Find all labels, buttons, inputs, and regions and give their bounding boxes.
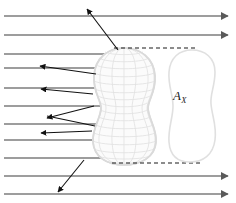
scattered-ray-left-5: [41, 131, 92, 133]
scattered-ray-left-1: [40, 66, 96, 74]
figure-canvas: [0, 0, 236, 203]
scattering-figure: AX: [0, 0, 236, 203]
projected-cross-section-outline: [169, 50, 216, 162]
cross-section-area-subscript: X: [181, 95, 186, 105]
cross-section-area-symbol: A: [173, 88, 181, 103]
scattered-ray-left-3: [47, 106, 94, 118]
scattered-ray-up: [87, 9, 118, 50]
wireframe-body: [93, 48, 156, 165]
cross-section-area-label: AX: [173, 88, 186, 104]
scattered-ray-left-2: [41, 89, 93, 94]
